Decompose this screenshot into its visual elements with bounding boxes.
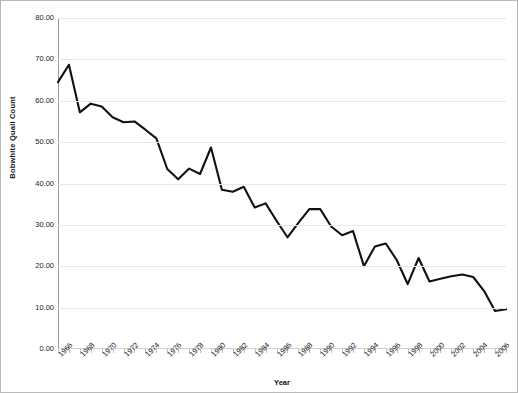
gridline [58,18,506,19]
chart-container: Bobwhite Quail Count 0.0010.0020.0030.00… [0,0,518,393]
y-axis-tick-label: 60.00 [10,97,54,105]
y-axis-tick-label: 50.00 [10,138,54,146]
gridline [58,142,506,143]
x-axis-title: Year [58,378,506,387]
y-axis-tick-label: 30.00 [10,221,54,229]
plot-area [58,18,506,349]
y-axis-tick-label: 80.00 [10,14,54,22]
y-axis-tick-labels: 0.0010.0020.0030.0040.0050.0060.0070.008… [6,18,54,349]
gridline [58,308,506,309]
y-axis-tick-label: 10.00 [10,304,54,312]
gridline [58,101,506,102]
x-axis-tick-labels: 1966196819701972197419761978198019821984… [58,353,506,381]
gridline [58,266,506,267]
y-axis-tick-label: 20.00 [10,263,54,271]
y-axis-tick-label: 0.00 [10,345,54,353]
gridline [58,59,506,60]
y-axis-tick-label: 40.00 [10,180,54,188]
gridline [58,225,506,226]
gridline [58,184,506,185]
y-axis-tick-label: 70.00 [10,56,54,64]
